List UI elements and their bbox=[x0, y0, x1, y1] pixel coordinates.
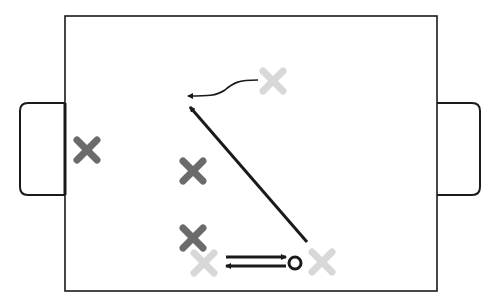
player-dark-x-icon bbox=[77, 140, 97, 160]
goal-left bbox=[20, 103, 65, 195]
field-boundary bbox=[65, 16, 437, 291]
play-diagram bbox=[0, 0, 500, 308]
ball-icon bbox=[289, 257, 301, 269]
player-light-x-icon bbox=[312, 252, 332, 272]
run-arrow-diagonal bbox=[190, 107, 307, 242]
run-arrow-curved bbox=[188, 80, 258, 96]
player-dark-x-icon bbox=[183, 228, 203, 248]
diagram-canvas bbox=[0, 0, 500, 308]
goal-right bbox=[437, 103, 480, 195]
player-dark-x-icon bbox=[183, 161, 203, 181]
player-light-x-icon bbox=[263, 71, 283, 91]
player-light-x-icon bbox=[194, 253, 214, 273]
